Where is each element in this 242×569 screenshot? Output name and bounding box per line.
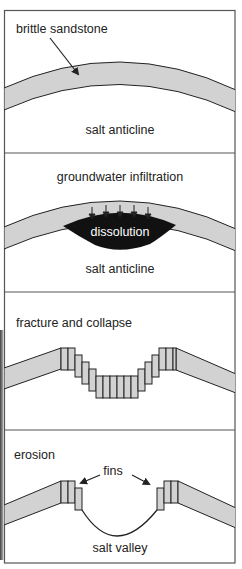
- salt-anticline-label: salt anticline: [86, 123, 155, 137]
- salt-anticline-label: salt anticline: [86, 262, 155, 276]
- valley-floor: [82, 510, 157, 536]
- fin-arrow-left-icon: [81, 475, 100, 483]
- panel-4: erosion fins salt valley: [4, 448, 236, 555]
- brittle-sandstone-label: brittle sandstone: [16, 22, 108, 36]
- sandstone-layer: [4, 62, 236, 112]
- remaining-fins: [4, 481, 236, 528]
- fracture-and-collapse-label: fracture and collapse: [16, 316, 132, 330]
- salt-valley-formation-diagram: brittle sandstone salt anticline groundw…: [0, 0, 242, 569]
- fins-label: fins: [103, 464, 122, 478]
- panel-2: groundwater infiltration dissolution sal…: [4, 170, 236, 276]
- fractured-layer: [4, 348, 236, 398]
- dissolution-label: dissolution: [90, 225, 149, 239]
- groundwater-infiltration-label: groundwater infiltration: [57, 170, 184, 184]
- fin-arrow-right-icon: [132, 475, 149, 484]
- panel-1: brittle sandstone salt anticline: [4, 22, 236, 137]
- panel-3: fracture and collapse: [4, 316, 236, 398]
- salt-valley-label: salt valley: [93, 541, 149, 555]
- erosion-label: erosion: [14, 448, 55, 462]
